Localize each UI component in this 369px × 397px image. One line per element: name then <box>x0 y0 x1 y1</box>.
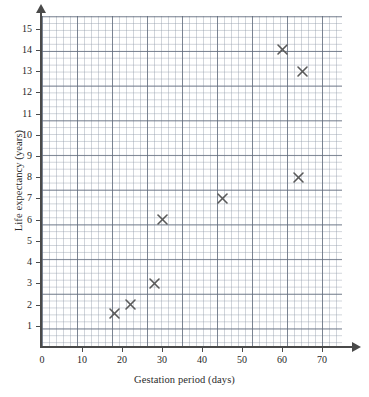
y-axis-title: Life expectancy (years) <box>13 101 24 261</box>
data-point-marker <box>149 278 160 289</box>
x-tick-label: 20 <box>110 355 134 365</box>
x-tick-mark <box>282 348 283 352</box>
y-axis-arrow-icon <box>36 4 46 13</box>
x-tick-label: 40 <box>190 355 214 365</box>
y-tick-mark <box>36 198 40 199</box>
x-tick-mark <box>122 348 123 352</box>
y-tick-mark <box>36 71 40 72</box>
x-tick-mark <box>202 348 203 352</box>
y-tick-mark <box>36 326 40 327</box>
data-point-marker <box>297 66 308 77</box>
data-point-marker <box>277 44 288 55</box>
x-axis-arrow-icon <box>352 342 361 352</box>
y-tick-label: 1 <box>12 321 32 331</box>
data-point-marker <box>217 193 228 204</box>
y-tick-mark <box>36 92 40 93</box>
y-tick-label: 13 <box>12 66 32 76</box>
x-tick-mark <box>242 348 243 352</box>
x-tick-label: 60 <box>270 355 294 365</box>
data-point-marker <box>109 308 120 319</box>
scatter-chart: 010203040506070 123456789101112131415 Ge… <box>0 0 369 397</box>
y-tick-mark <box>36 177 40 178</box>
y-tick-label: 15 <box>12 24 32 34</box>
y-tick-label: 12 <box>12 87 32 97</box>
y-tick-label: 3 <box>12 278 32 288</box>
x-tick-label: 30 <box>150 355 174 365</box>
y-tick-mark <box>36 50 40 51</box>
data-point-marker <box>157 214 168 225</box>
x-tick-label: 0 <box>30 355 54 365</box>
x-tick-mark <box>322 348 323 352</box>
x-axis-title: Gestation period (days) <box>0 374 369 385</box>
y-tick-mark <box>36 220 40 221</box>
plot-area <box>42 16 342 347</box>
y-tick-mark <box>36 135 40 136</box>
y-tick-mark <box>36 283 40 284</box>
y-tick-mark <box>36 114 40 115</box>
data-point-marker <box>125 299 136 310</box>
x-axis-line <box>42 346 355 348</box>
y-tick-mark <box>36 156 40 157</box>
y-axis-line <box>40 10 42 348</box>
y-tick-mark <box>36 241 40 242</box>
y-tick-label: 2 <box>12 300 32 310</box>
data-point-marker <box>293 172 304 183</box>
y-tick-mark <box>36 262 40 263</box>
x-tick-mark <box>82 348 83 352</box>
x-tick-label: 50 <box>230 355 254 365</box>
y-tick-label: 14 <box>12 45 32 55</box>
x-tick-label: 10 <box>70 355 94 365</box>
x-tick-mark <box>162 348 163 352</box>
y-tick-mark <box>36 305 40 306</box>
y-tick-mark <box>36 29 40 30</box>
x-tick-label: 70 <box>310 355 334 365</box>
